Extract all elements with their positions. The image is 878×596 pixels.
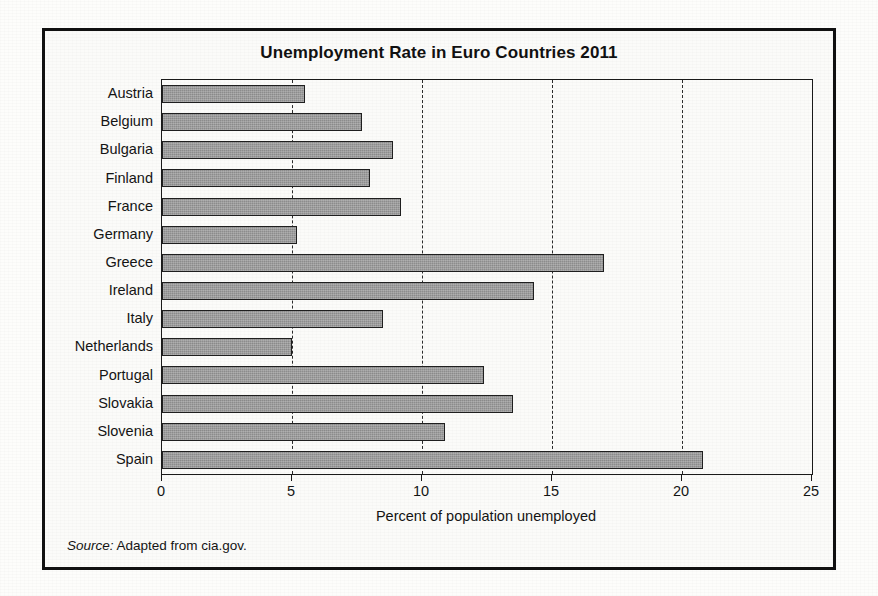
- bar-slovenia: [162, 423, 445, 441]
- x-tick-mark-20: [681, 474, 682, 481]
- x-tick-label-20: 20: [661, 483, 701, 499]
- bar-belgium: [162, 113, 362, 131]
- bar-bulgaria: [162, 141, 393, 159]
- category-axis-labels: AustriaBelgiumBulgariaFinlandFranceGerma…: [45, 79, 153, 473]
- bar-row: [162, 193, 812, 221]
- category-label-germany: Germany: [41, 227, 153, 242]
- bar-greece: [162, 254, 604, 272]
- bar-row: [162, 108, 812, 136]
- category-label-france: France: [41, 199, 153, 214]
- bar-row: [162, 277, 812, 305]
- x-tick-mark-0: [161, 474, 162, 481]
- category-label-slovenia: Slovenia: [41, 424, 153, 439]
- bar-finland: [162, 169, 370, 187]
- bar-italy: [162, 310, 383, 328]
- bar-france: [162, 198, 401, 216]
- x-tick-label-0: 0: [141, 483, 181, 499]
- scanned-page: Unemployment Rate in Euro Countries 2011…: [0, 0, 878, 596]
- bar-row: [162, 305, 812, 333]
- bar-row: [162, 390, 812, 418]
- bar-row: [162, 249, 812, 277]
- figure-frame: Unemployment Rate in Euro Countries 2011…: [42, 28, 836, 570]
- category-label-greece: Greece: [41, 255, 153, 270]
- x-tick-mark-25: [811, 474, 812, 481]
- bar-row: [162, 446, 812, 474]
- bar-row: [162, 221, 812, 249]
- chart-title: Unemployment Rate in Euro Countries 2011: [45, 43, 833, 63]
- x-tick-mark-5: [291, 474, 292, 481]
- x-tick-label-5: 5: [271, 483, 311, 499]
- bar-row: [162, 361, 812, 389]
- x-tick-label-15: 15: [531, 483, 571, 499]
- bar-row: [162, 136, 812, 164]
- bar-netherlands: [162, 338, 292, 356]
- bar-row: [162, 164, 812, 192]
- bar-ireland: [162, 282, 534, 300]
- bar-spain: [162, 451, 703, 469]
- x-tick-label-25: 25: [791, 483, 831, 499]
- category-label-slovakia: Slovakia: [41, 396, 153, 411]
- source-label: Source:: [67, 538, 114, 553]
- source-text: Adapted from cia.gov.: [114, 538, 247, 553]
- bar-row: [162, 80, 812, 108]
- plot-area: [161, 79, 813, 475]
- category-label-spain: Spain: [41, 452, 153, 467]
- bar-row: [162, 418, 812, 446]
- x-tick-mark-15: [551, 474, 552, 481]
- category-label-belgium: Belgium: [41, 114, 153, 129]
- x-axis-title: Percent of population unemployed: [161, 508, 811, 524]
- category-label-austria: Austria: [41, 86, 153, 101]
- category-label-portugal: Portugal: [41, 368, 153, 383]
- bar-germany: [162, 226, 297, 244]
- x-tick-label-10: 10: [401, 483, 441, 499]
- x-axis-ticks: 0510152025: [161, 474, 811, 482]
- x-tick-mark-10: [421, 474, 422, 481]
- bar-slovakia: [162, 395, 513, 413]
- category-label-bulgaria: Bulgaria: [41, 142, 153, 157]
- bar-austria: [162, 85, 305, 103]
- category-label-finland: Finland: [41, 171, 153, 186]
- bar-portugal: [162, 366, 484, 384]
- bar-row: [162, 333, 812, 361]
- source-note: Source: Adapted from cia.gov.: [67, 538, 247, 553]
- category-label-ireland: Ireland: [41, 283, 153, 298]
- category-label-italy: Italy: [41, 311, 153, 326]
- category-label-netherlands: Netherlands: [41, 339, 153, 354]
